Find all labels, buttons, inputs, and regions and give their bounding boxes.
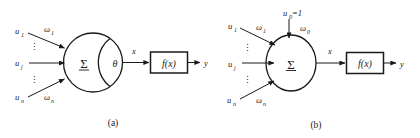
input-1-symbol: u (228, 21, 232, 31)
weight-1-symbol: ω (256, 22, 262, 32)
panel-a-dots-upper: ⋮ (30, 42, 39, 52)
panel-b-input-1-label: u 1 (228, 21, 237, 33)
panel-b-input-j-label: u j (228, 59, 236, 71)
panel-b-weight-n-label: ω n (256, 95, 266, 107)
panel-a: u 1 ω 1 ⋮ u j ⋮ u n (15, 24, 208, 129)
panel-b-input-n-label: u n (227, 95, 236, 107)
panel-b-weight-1-label: ω 1 (256, 22, 266, 34)
neuron-model-figure: u 1 ω 1 ⋮ u j ⋮ u n (0, 0, 420, 138)
input-j-symbol: u (15, 58, 19, 68)
panel-a-summation-symbol: Σ (80, 56, 88, 71)
panel-b-net-input-label: x (327, 46, 332, 56)
panel-a-weight-n-label: ω n (44, 92, 54, 104)
input-j-symbol: u (228, 59, 232, 69)
panel-b-bias-label: u 0 =1 (283, 8, 302, 20)
panel-a-caption: (a) (108, 118, 119, 129)
panel-a-weight-1-label: ω 1 (44, 24, 54, 36)
weight-n-symbol: ω (44, 92, 50, 102)
weight-1-subscript: 1 (51, 30, 54, 36)
input-n-symbol: u (15, 92, 19, 102)
weight-1-subscript: 1 (263, 28, 266, 34)
input-n-symbol: u (227, 95, 231, 105)
input-j-subscript: j (233, 65, 236, 71)
input-j-subscript: j (20, 64, 23, 70)
panel-b-output-label: y (399, 59, 404, 69)
panel-a-output-label: y (203, 58, 208, 68)
weight-n-symbol: ω (256, 95, 262, 105)
input-n-subscript: n (233, 101, 236, 107)
panel-a-input-1-label: u 1 (15, 26, 24, 38)
bias-weight-symbol: ω (300, 23, 306, 33)
input-1-symbol: u (15, 26, 19, 36)
panel-b-caption: (b) (310, 120, 321, 131)
panel-a-input-n-label: u n (15, 92, 24, 104)
panel-b-summation-symbol: Σ (287, 57, 295, 72)
panel-b-dots-upper: ⋮ (243, 43, 252, 53)
panel-a-threshold-divider (98, 39, 110, 87)
panel-b: u 0 =1 ω 0 u 1 ω 1 ⋮ (227, 8, 404, 131)
bias-input-symbol: u (283, 8, 287, 18)
panel-a-threshold-symbol: θ (113, 58, 118, 69)
panel-b-dots-lower: ⋮ (243, 75, 252, 85)
input-n-subscript: n (21, 98, 24, 104)
input-1-subscript: 1 (21, 32, 24, 38)
weight-n-subscript: n (263, 101, 266, 107)
figure-canvas: u 1 ω 1 ⋮ u j ⋮ u n (0, 0, 420, 138)
panel-b-bias-weight-label: ω 0 (300, 23, 310, 35)
panel-a-activation-label: f(x) (162, 58, 177, 70)
weight-1-symbol: ω (44, 24, 50, 34)
panel-b-activation-label: f(x) (358, 58, 373, 70)
bias-input-value: =1 (292, 8, 302, 18)
panel-a-net-input-label: x (131, 46, 136, 56)
panel-a-input-j-label: u j (15, 58, 23, 70)
panel-a-dots-lower: ⋮ (30, 75, 39, 85)
bias-weight-subscript: 0 (307, 29, 310, 35)
input-1-subscript: 1 (234, 27, 237, 33)
weight-n-subscript: n (51, 98, 54, 104)
